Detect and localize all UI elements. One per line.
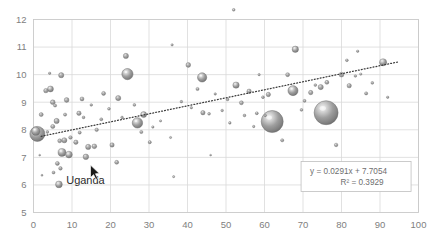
- bubble-highlight: [200, 75, 202, 77]
- bubble: [229, 122, 232, 125]
- bubble: [115, 160, 119, 164]
- x-tick-60: 60: [259, 219, 270, 230]
- bubble: [221, 109, 224, 112]
- y-tick-11: 11: [17, 41, 27, 52]
- bubble: [140, 130, 143, 133]
- r-squared-text: R² = 0.3929: [341, 178, 384, 187]
- bubble: [77, 111, 81, 115]
- bubble: [108, 107, 111, 110]
- bubble: [48, 72, 50, 74]
- y-tick-7: 7: [21, 152, 26, 163]
- bubble: [100, 118, 103, 121]
- bubble: [255, 112, 258, 115]
- bubble: [292, 46, 298, 52]
- bubble: [309, 90, 313, 94]
- bubble: [41, 174, 43, 176]
- bubble: [387, 96, 389, 98]
- bubble: [80, 97, 84, 101]
- bubble: [314, 84, 317, 87]
- bubble: [64, 98, 69, 103]
- trendline-equation-text: y = 0.0291x + 7.7054: [310, 167, 387, 176]
- bubble: [44, 88, 48, 92]
- y-tick-9: 9: [21, 97, 26, 108]
- y-tick-6: 6: [21, 179, 26, 190]
- bubble: [159, 120, 161, 122]
- bubble: [52, 171, 55, 174]
- y-tick-8: 8: [21, 124, 26, 135]
- bubble: [69, 136, 73, 140]
- bubble: [281, 139, 284, 142]
- bubble: [66, 151, 73, 158]
- bubble: [325, 80, 329, 84]
- bubble: [74, 140, 78, 144]
- bubble: [58, 148, 66, 156]
- data-annotations: Uganda: [66, 174, 105, 186]
- chart-canvas: 56789101112 0102030405060708090100 Ugand…: [0, 0, 437, 243]
- x-tick-40: 40: [182, 219, 193, 230]
- bubble: [345, 59, 348, 62]
- bubble: [243, 114, 246, 117]
- bubble-highlight: [124, 71, 127, 73]
- bubble: [132, 118, 142, 128]
- bubble: [232, 8, 235, 11]
- bubble: [356, 50, 358, 52]
- x-tick-70: 70: [298, 219, 309, 230]
- bubble: [266, 92, 270, 96]
- bubble: [286, 73, 290, 77]
- bubble-highlight: [266, 115, 272, 119]
- bubble: [53, 104, 56, 107]
- bubble: [90, 104, 93, 107]
- bubble: [152, 126, 154, 128]
- bubble: [55, 161, 59, 165]
- x-tick-20: 20: [105, 219, 116, 230]
- bubble: [186, 63, 191, 68]
- bubble: [56, 181, 63, 188]
- bubble: [354, 75, 357, 78]
- bubble: [46, 131, 49, 134]
- bubble: [226, 98, 229, 101]
- bubble: [133, 104, 136, 107]
- bubble: [347, 83, 351, 87]
- bubble-highlight: [34, 129, 36, 131]
- bubble: [190, 107, 192, 109]
- bubble: [201, 110, 205, 114]
- bubble-highlight: [60, 150, 62, 152]
- bubble: [92, 144, 97, 149]
- y-tick-10: 10: [16, 69, 27, 80]
- bubble: [62, 138, 67, 143]
- bubble: [318, 84, 323, 89]
- bubble: [196, 87, 199, 90]
- bubble: [300, 109, 303, 112]
- bubble-highlight: [320, 106, 326, 111]
- bubble: [39, 113, 43, 117]
- bubble: [148, 141, 151, 144]
- x-tick-100: 100: [411, 219, 427, 230]
- bubble: [173, 176, 175, 178]
- bubble: [95, 128, 99, 132]
- bubble: [253, 125, 255, 127]
- bubble: [116, 95, 121, 100]
- annotation-label: Uganda: [66, 174, 105, 186]
- bubble: [83, 154, 89, 160]
- bubble: [258, 73, 260, 75]
- bubble: [334, 143, 338, 147]
- x-tick-90: 90: [375, 219, 386, 230]
- bubble: [365, 92, 368, 95]
- bubble-highlight: [290, 88, 293, 90]
- bubble: [54, 118, 59, 123]
- trendline-equation-box: y = 0.0291x + 7.7054R² = 0.3929: [301, 161, 411, 191]
- bubble: [102, 91, 106, 95]
- bubble: [261, 111, 283, 133]
- bubble: [262, 96, 265, 99]
- bubble: [360, 73, 362, 75]
- bubble: [303, 99, 306, 102]
- bubble: [122, 68, 133, 79]
- bubble: [198, 73, 207, 82]
- bubble: [169, 136, 171, 138]
- x-tick-50: 50: [221, 219, 232, 230]
- bubble: [78, 131, 81, 134]
- bubble: [239, 101, 243, 105]
- bubble: [288, 86, 298, 96]
- x-tick-0: 0: [31, 219, 36, 230]
- x-tick-30: 30: [144, 219, 155, 230]
